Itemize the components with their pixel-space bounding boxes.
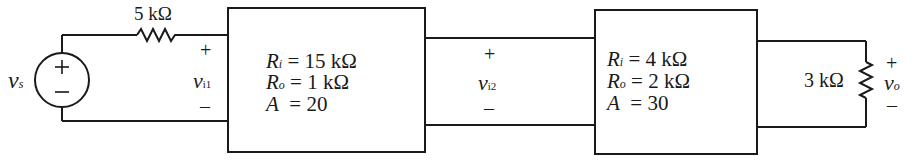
source-label: vs — [8, 68, 23, 92]
series-resistor-symbol — [137, 29, 178, 41]
port2-minus: – — [484, 98, 494, 118]
port1-minus: – — [200, 96, 210, 116]
port1-label: vi1 — [193, 70, 211, 92]
stage2-ro: Ro = 2 kΩ — [607, 71, 690, 92]
stage1-gain: A = 20 — [266, 94, 327, 115]
stage1-ri: Ri = 15 kΩ — [266, 51, 357, 72]
output-label: vo — [884, 72, 900, 94]
load-resistor-label: 3 kΩ — [804, 70, 844, 90]
port2-plus: + — [484, 44, 495, 64]
load-resistor-symbol — [860, 62, 872, 98]
stage2-gain: A = 30 — [607, 93, 668, 114]
port1-plus: + — [200, 40, 211, 60]
cascaded-amplifier-diagram: vs 5 kΩ + vi1 – Ri = 15 kΩ Ro = 1 kΩ A =… — [0, 0, 915, 161]
stage1-ro: Ro = 1 kΩ — [266, 72, 349, 93]
output-minus: – — [887, 95, 897, 115]
circuit-wiring — [0, 0, 915, 161]
port2-label: vi2 — [478, 72, 496, 94]
stage2-ri: Ri = 4 kΩ — [607, 49, 687, 70]
series-resistor-label: 5 kΩ — [134, 4, 172, 23]
